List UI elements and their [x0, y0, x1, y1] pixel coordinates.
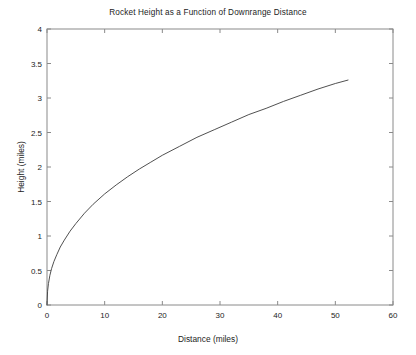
svg-text:1: 1 — [38, 232, 43, 241]
svg-text:40: 40 — [273, 311, 282, 320]
svg-text:30: 30 — [216, 311, 225, 320]
svg-text:3: 3 — [38, 94, 43, 103]
y-axis-label: Height (miles) — [14, 29, 28, 305]
svg-text:60: 60 — [389, 311, 398, 320]
svg-text:4: 4 — [38, 25, 43, 34]
svg-text:20: 20 — [158, 311, 167, 320]
svg-text:0: 0 — [45, 311, 50, 320]
svg-text:3.5: 3.5 — [31, 60, 43, 69]
svg-text:2: 2 — [38, 163, 43, 172]
figure-canvas: Rocket Height as a Function of Downrange… — [0, 0, 416, 355]
svg-text:0: 0 — [38, 301, 43, 310]
svg-text:0.5: 0.5 — [31, 267, 43, 276]
svg-text:10: 10 — [100, 311, 109, 320]
plot-background — [47, 29, 393, 305]
x-axis-label: Distance (miles) — [0, 334, 416, 344]
plot-area: 010203040506000.511.522.533.54 — [0, 0, 416, 355]
svg-text:1.5: 1.5 — [31, 198, 43, 207]
svg-text:50: 50 — [331, 311, 340, 320]
svg-text:2.5: 2.5 — [31, 129, 43, 138]
